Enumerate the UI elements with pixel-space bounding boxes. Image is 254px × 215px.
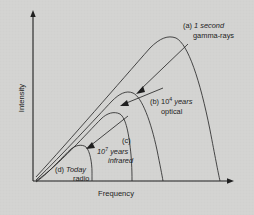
label-c-marker: (c) (122, 136, 131, 145)
blackbody-curves-diagram: (a) 1 second gamma-rays (b) 104 years op… (0, 0, 254, 215)
label-b-line2: optical (161, 107, 183, 116)
pointer-arrow-a-icon (136, 86, 145, 94)
label-d-line1: (d) Today (55, 165, 87, 174)
label-a-line2: gamma-rays (193, 31, 234, 40)
x-axis-label: Frequency (98, 189, 134, 198)
label-d-line2: radio (73, 174, 89, 183)
label-a-line1: (a) 1 second (183, 21, 225, 30)
label-a-group: (a) 1 second gamma-rays (183, 21, 234, 40)
figure-container: (a) 1 second gamma-rays (b) 104 years op… (0, 0, 254, 215)
arrow-up-icon (30, 10, 35, 17)
y-axis-label: Intensity (17, 84, 26, 112)
label-b-group: (b) 104 years optical (150, 96, 193, 116)
pointer-arrow-b-icon (120, 100, 129, 106)
label-c-group: (c) 107 years infrared (97, 136, 134, 165)
label-c-line2: infrared (108, 156, 134, 165)
label-c-line1: 107 years (97, 146, 129, 156)
label-d-group: (d) Today radio (55, 165, 89, 183)
arrow-right-icon (227, 178, 234, 183)
label-b-line1: (b) 104 years (150, 96, 193, 106)
